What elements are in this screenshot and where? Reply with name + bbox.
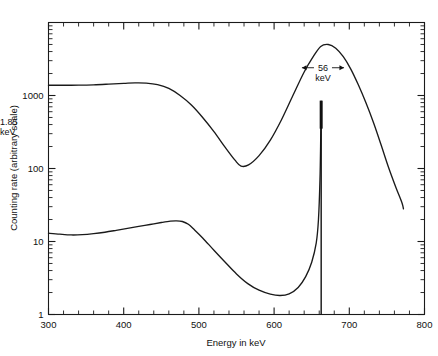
y-tick-label: 1000 bbox=[22, 90, 43, 101]
y-axis-tick-labels: 1101001000 bbox=[22, 90, 43, 320]
x-tick-label: 600 bbox=[266, 319, 282, 330]
x-tick-label: 500 bbox=[191, 319, 207, 330]
plot-frame bbox=[49, 23, 425, 315]
x-tick-label: 400 bbox=[116, 319, 132, 330]
x-axis-title: Energy in keV bbox=[206, 337, 266, 348]
y-axis-major-ticks bbox=[49, 96, 425, 315]
curve-scintillation-detector bbox=[49, 44, 404, 208]
annotation-56-kev-unit: keV bbox=[315, 73, 331, 83]
x-tick-label: 700 bbox=[341, 319, 357, 330]
curve-semiconductor-detector bbox=[49, 103, 322, 296]
spectrum-chart: 300400500600700800 1101001000 56 keV 1.8… bbox=[0, 0, 438, 356]
x-tick-label: 800 bbox=[417, 319, 433, 330]
annotation-56-kev-value: 56 bbox=[318, 63, 328, 73]
y-tick-label: 100 bbox=[28, 163, 44, 174]
y-axis-minor-ticks bbox=[49, 26, 425, 293]
x-tick-label: 300 bbox=[41, 319, 57, 330]
figure-container: 300400500600700800 1101001000 56 keV 1.8… bbox=[0, 0, 438, 356]
x-axis-tick-labels: 300400500600700800 bbox=[41, 319, 433, 330]
y-tick-label: 1 bbox=[38, 309, 43, 320]
x-axis-minor-ticks bbox=[64, 23, 410, 315]
x-axis-major-ticks bbox=[49, 23, 425, 315]
y-axis-title: Counting rate (arbitrary scale) bbox=[8, 105, 19, 231]
y-tick-label: 10 bbox=[33, 236, 44, 247]
